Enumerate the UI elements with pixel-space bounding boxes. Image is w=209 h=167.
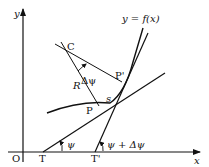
s-label: s <box>106 93 111 104</box>
delta-psi-label: Δψ <box>81 75 96 86</box>
p-label: P <box>86 105 93 116</box>
radius-label: R <box>72 80 81 91</box>
y-axis-label: y <box>13 8 20 19</box>
curve-label: y = f(x) <box>121 13 160 24</box>
psi-plus-arc <box>100 142 103 151</box>
origin-label: O <box>12 153 20 164</box>
tangent-p <box>43 73 165 152</box>
psi-plus-delta-label: ψ + Δψ <box>107 139 145 150</box>
delta-psi-arc <box>78 64 86 71</box>
psi-arc <box>60 141 62 151</box>
curvature-diagram: y x O y = f(x) C R Δψ P P' s T T' ψ ψ + … <box>0 0 209 167</box>
x-axis-label: x <box>194 155 200 166</box>
curve <box>47 28 143 113</box>
psi-label: ψ <box>67 139 75 150</box>
center-label: C <box>67 41 75 52</box>
p-prime-label: P' <box>115 70 124 81</box>
t-label: T <box>39 153 46 164</box>
t-prime-label: T' <box>91 153 100 164</box>
tangent-p-prime <box>95 33 148 152</box>
